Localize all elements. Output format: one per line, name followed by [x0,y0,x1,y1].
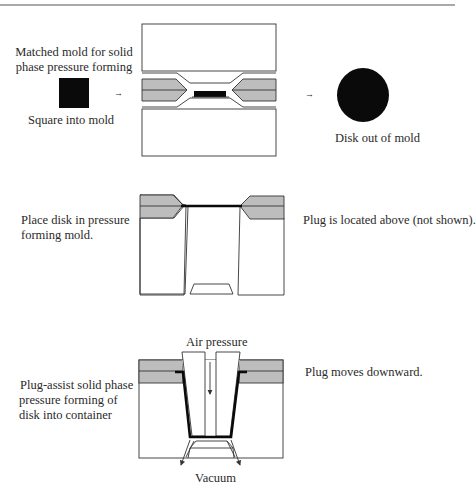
step3-left-label-line2: pressure forming of [19,393,118,408]
step1-square-label: Square into mold [28,113,114,128]
step3-left-label-line3: disk into container [19,408,112,423]
step1-formed-disk [337,68,389,122]
step3-left-label-line1: Plug-assist solid phase [20,378,133,393]
step1-mold-title-line1: Matched mold for solid [14,45,134,60]
step3-air-pressure-label: Air pressure [186,335,247,350]
step1-mold-title-line2: phase pressure forming [14,60,134,75]
step2-pressure-forming-mold [140,195,284,295]
step2-left-label-line2: forming mold. [21,228,93,243]
step1-square-blank [59,78,89,108]
step1-arrow-right-icon-2: → [305,87,314,102]
step1-disk-label: Disk out of mold [335,131,420,146]
step3-plug-assist-mold [139,352,283,465]
step2-left-label-line1: Place disk in pressure [21,213,130,228]
step2-right-label: Plug is located above (not shown). [303,213,476,228]
step1-matched-mold [142,24,276,156]
step3-right-label: Plug moves downward. [305,365,423,380]
step3-vacuum-label: Vacuum [195,471,236,486]
step1-arrow-right-icon: → [114,86,123,101]
